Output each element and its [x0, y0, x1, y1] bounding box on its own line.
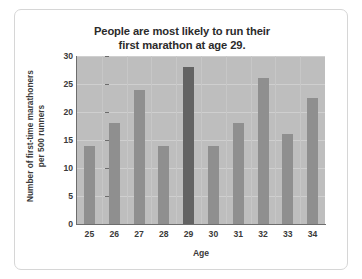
- x-axis-tick-label-33: 33: [276, 229, 300, 239]
- gridline-vertical: [151, 56, 152, 224]
- gridline-vertical: [102, 56, 103, 224]
- y-axis-tick-mark: [105, 168, 109, 169]
- y-axis-title-line-1: Number of first-time marathoners: [25, 48, 36, 224]
- y-axis-tick-label: 25: [51, 79, 73, 89]
- chart-title-line-1: People are most likely to run their: [43, 24, 321, 38]
- bar-age-27: [134, 90, 145, 224]
- bar-age-26: [109, 123, 120, 224]
- y-axis-tick-mark: [105, 56, 109, 57]
- x-axis-tick-label-30: 30: [201, 229, 225, 239]
- y-axis-line: [76, 56, 77, 225]
- gridline-vertical: [127, 56, 128, 224]
- x-axis-tick-label-28: 28: [152, 229, 176, 239]
- y-axis-title: Number of first-time marathoners per 500…: [25, 48, 47, 224]
- x-axis-tick-label-25: 25: [77, 229, 101, 239]
- bar-age-32: [258, 78, 269, 224]
- y-axis-tick-mark: [105, 196, 109, 197]
- y-axis-tick-mark: [105, 224, 109, 225]
- y-axis-tick-mark: [105, 112, 109, 113]
- y-axis-tick-labels: 051015202530: [47, 56, 73, 224]
- gridline-vertical: [226, 56, 227, 224]
- gridline-vertical: [300, 56, 301, 224]
- bar-age-31: [233, 123, 244, 224]
- bar-age-30: [208, 146, 219, 224]
- x-axis-tick-label-27: 27: [127, 229, 151, 239]
- bar-age-34: [307, 98, 318, 224]
- y-axis-tick-label: 0: [51, 219, 73, 229]
- y-axis-tick-label: 15: [51, 135, 73, 145]
- gridline-vertical: [201, 56, 202, 224]
- y-axis-tick-label: 20: [51, 107, 73, 117]
- x-axis-tick-label-31: 31: [226, 229, 250, 239]
- gridline-vertical: [275, 56, 276, 224]
- bar-age-28: [158, 146, 169, 224]
- y-axis-tick-label: 30: [51, 51, 73, 61]
- y-axis-tick-label: 5: [51, 191, 73, 201]
- x-axis-tick-label-34: 34: [301, 229, 325, 239]
- x-axis-line: [76, 224, 326, 225]
- chart-title-line-2: first marathon at age 29.: [43, 38, 321, 52]
- y-axis-tick-mark: [105, 84, 109, 85]
- y-axis-tick-mark: [105, 140, 109, 141]
- bar-age-29: [183, 67, 194, 224]
- y-axis-title-line-2: per 500 runners: [36, 48, 47, 224]
- bar-age-25: [84, 146, 95, 224]
- bar-age-33: [282, 134, 293, 224]
- chart-title: People are most likely to run their firs…: [43, 24, 321, 52]
- gridline-vertical: [251, 56, 252, 224]
- x-axis-tick-label-32: 32: [251, 229, 275, 239]
- chart-card: People are most likely to run their firs…: [14, 9, 348, 270]
- y-axis-tick-label: 10: [51, 163, 73, 173]
- x-axis-tick-label-26: 26: [102, 229, 126, 239]
- plot-area: [77, 56, 325, 224]
- x-axis-title: Age: [77, 248, 325, 258]
- gridline-vertical: [176, 56, 177, 224]
- x-axis-tick-label-29: 29: [177, 229, 201, 239]
